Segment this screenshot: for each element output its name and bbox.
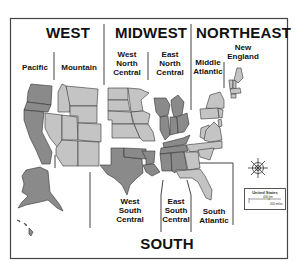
division-label-east-south-central: East South Central [156, 198, 196, 225]
division-label-mountain: Mountain [58, 64, 100, 73]
region-label-south: SOUTH [132, 236, 202, 253]
new-england-division [229, 68, 243, 98]
region-label-midwest: MIDWEST [115, 25, 187, 42]
compass-rose-icon [248, 158, 268, 178]
west-north-central-division [108, 88, 155, 141]
east-north-central-division [154, 95, 189, 140]
scale-legend: United States 400 km 400 miles [244, 188, 286, 210]
division-label-pacific: Pacific [18, 64, 52, 73]
division-label-south-atlantic: South Atlantic [196, 208, 232, 226]
division-label-new-england: New England [226, 44, 260, 62]
region-label-west: WEST [38, 25, 98, 42]
west-south-central-division [100, 148, 160, 195]
legend-scale-miles: 400 miles [270, 202, 283, 206]
division-label-west-south-central: West South Central [110, 198, 150, 225]
division-label-middle-atlantic: Middle Atlantic [193, 59, 223, 77]
division-label-west-north-central: West North Central [108, 51, 146, 78]
middle-atlantic-division [200, 92, 224, 119]
region-label-northeast: NORTHEAST [196, 25, 286, 42]
pacific-division [17, 84, 63, 236]
scale-bar [245, 189, 285, 209]
mountain-division [45, 84, 101, 166]
division-label-east-north-central: East North Central [150, 51, 190, 78]
